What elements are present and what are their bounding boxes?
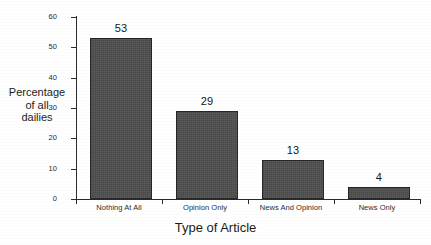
y-tick-mark-60	[71, 17, 76, 18]
bar-value-news-only: 4	[348, 171, 410, 183]
bar-news-only	[348, 187, 410, 199]
y-tick-label-0: 0	[0, 195, 57, 203]
y-tick-label-60: 60	[0, 13, 57, 21]
y-axis-title-line-3: dailies	[2, 111, 72, 124]
x-tick-mark-4	[420, 200, 421, 204]
x-category-label-opinion-only: Opinion Only	[162, 203, 248, 212]
bar-value-news-and-opinion: 13	[262, 144, 324, 156]
y-tick-mark-10	[71, 169, 76, 170]
bar-news-and-opinion	[262, 160, 324, 199]
x-category-label-news-only: News Only	[334, 203, 420, 212]
y-axis-title-line-1: Percentage	[2, 86, 72, 99]
x-axis-title: Type of Article	[0, 220, 431, 235]
y-tick-label-40: 40	[0, 74, 57, 82]
y-tick-label-30: 30	[0, 104, 57, 112]
y-tick-label-50: 50	[0, 43, 57, 51]
y-tick-label-10: 10	[0, 165, 57, 173]
bar-chart: Percentage of all dailies 60 50 40 30 20…	[0, 0, 431, 245]
x-category-label-news-and-opinion: News And Opinion	[248, 203, 334, 212]
y-tick-mark-40	[71, 78, 76, 79]
x-category-label-nothing-at-all: Nothing At All	[76, 203, 162, 212]
bar-nothing-at-all	[90, 38, 152, 199]
bar-value-opinion-only: 29	[176, 95, 238, 107]
y-axis-line	[76, 16, 77, 200]
y-tick-mark-30	[71, 108, 76, 109]
y-tick-mark-20	[71, 138, 76, 139]
y-tick-mark-50	[71, 47, 76, 48]
bar-value-nothing-at-all: 53	[90, 22, 152, 34]
y-tick-label-20: 20	[0, 134, 57, 142]
bar-opinion-only	[176, 111, 238, 199]
